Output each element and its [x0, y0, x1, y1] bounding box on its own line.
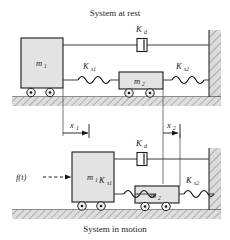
dimension-x1: x 1: [63, 120, 89, 138]
bottom-damper-label: K: [135, 138, 143, 148]
bottom-caption: System in motion: [83, 224, 147, 234]
x2-sub: 2: [173, 125, 176, 131]
x2-label: x: [166, 120, 171, 130]
bottom-ground: [12, 210, 221, 219]
bottom-mass2-sub: 2: [158, 195, 161, 201]
bottom-spring2-label: K: [185, 175, 193, 185]
top-mass2-wheels: [125, 89, 154, 97]
top-spring2-label: K: [175, 61, 183, 71]
force-label: f(t): [16, 172, 27, 182]
mass-spring-damper-diagram: System at rest m 1 m 2 K: [0, 0, 230, 240]
top-damper-label: K: [135, 24, 143, 34]
top-mass1-label: m: [36, 58, 42, 68]
top-caption: System at rest: [90, 8, 141, 18]
top-spring1: K s1: [63, 61, 119, 84]
top-mass1: m 1: [21, 38, 63, 88]
bottom-mass1: m 1: [72, 152, 114, 202]
top-mass2-label: m: [134, 76, 140, 86]
bottom-spring2-sub: s2: [194, 180, 199, 186]
top-spring2-sub: s2: [184, 66, 189, 72]
bottom-right-wall: [209, 148, 221, 214]
top-damper-sub: d: [144, 29, 147, 35]
top-spring2: K s2: [163, 61, 209, 84]
bottom-mass1-sub: 1: [95, 177, 98, 183]
top-mass2-sub: 2: [142, 81, 145, 87]
bottom-mass2-wheels: [141, 202, 170, 210]
dimension-x2: x 2: [163, 120, 180, 138]
top-mass1-wheels: [27, 88, 54, 96]
bottom-spring1-sub: s1: [107, 180, 112, 186]
top-spring1-sub: s1: [91, 66, 96, 72]
bottom-damper: K d: [114, 138, 209, 166]
x1-sub: 1: [76, 125, 79, 131]
top-spring1-label: K: [82, 61, 90, 71]
top-mass1-sub: 1: [44, 63, 47, 69]
top-mass2: m 2: [119, 72, 163, 89]
top-ground: [12, 97, 221, 106]
x1-label: x: [69, 120, 74, 130]
figure-container: System at rest m 1 m 2 K: [0, 0, 230, 240]
top-right-wall: [209, 30, 221, 100]
bottom-damper-sub: d: [144, 143, 147, 149]
top-damper: K d: [63, 24, 209, 52]
bottom-mass1-wheels: [78, 202, 105, 210]
bottom-mass1-label: m: [87, 172, 93, 182]
force-arrow: f(t): [16, 172, 71, 182]
